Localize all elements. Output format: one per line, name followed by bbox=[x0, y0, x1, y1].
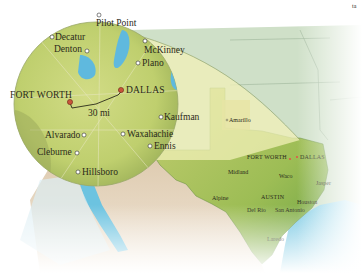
label-del-rio: Del Rio bbox=[247, 207, 266, 213]
label-fort-worth-state: FORT WORTH bbox=[247, 154, 287, 160]
label-san-antonio: San Antonio bbox=[275, 207, 305, 213]
label-houston: Houston bbox=[297, 199, 317, 205]
dallas-state-marker bbox=[296, 156, 298, 158]
svg-text:Pilot Point: Pilot Point bbox=[96, 18, 137, 28]
town-decatur: Decatur bbox=[50, 32, 86, 42]
town-alvarado: Alvarado bbox=[45, 130, 86, 140]
label-scale: 30 mi bbox=[88, 108, 110, 118]
fort-worth-state-marker bbox=[289, 158, 291, 160]
label-fort-worth-inset: FORT WORTH bbox=[10, 90, 72, 100]
texas-dfw-map: FORT WORTH DALLAS 30 mi Pilot Point Deca… bbox=[0, 0, 362, 273]
label-midland: Midland bbox=[228, 169, 248, 175]
svg-text:Ennis: Ennis bbox=[154, 141, 176, 151]
label-alpine: Alpine bbox=[212, 195, 229, 201]
town-hillsboro: Hillsboro bbox=[76, 167, 118, 177]
dallas-marker bbox=[118, 87, 123, 92]
svg-text:Alvarado: Alvarado bbox=[45, 130, 81, 140]
svg-text:Waxahachie: Waxahachie bbox=[127, 129, 173, 139]
label-dallas-state: DALLAS bbox=[300, 154, 325, 160]
svg-text:Denton: Denton bbox=[54, 44, 82, 54]
town-waxahachie: Waxahachie bbox=[121, 129, 173, 139]
svg-text:Plano: Plano bbox=[142, 58, 164, 68]
svg-text:Cleburne: Cleburne bbox=[37, 147, 72, 157]
svg-text:Decatur: Decatur bbox=[55, 32, 86, 42]
svg-text:Hillsboro: Hillsboro bbox=[82, 167, 118, 177]
corner-mark: ta bbox=[352, 3, 357, 9]
fort-worth-marker bbox=[67, 99, 72, 104]
label-waco: Waco bbox=[279, 173, 293, 179]
label-dallas-inset: DALLAS bbox=[126, 85, 165, 95]
label-laredo: Laredo bbox=[267, 236, 284, 242]
label-austin: AUSTIN bbox=[261, 194, 285, 200]
svg-text:McKinney: McKinney bbox=[144, 45, 185, 55]
town-pilot-point: Pilot Point bbox=[96, 13, 137, 28]
label-amarillo: Amarillo bbox=[229, 117, 251, 123]
label-jasper: Jasper bbox=[316, 180, 331, 186]
town-kaufman: Kaufman bbox=[159, 112, 200, 122]
svg-text:Kaufman: Kaufman bbox=[164, 112, 200, 122]
